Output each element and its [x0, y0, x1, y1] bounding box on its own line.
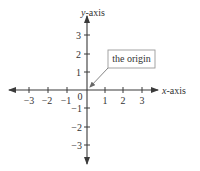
x-axis-label: x-axis — [161, 85, 186, 96]
y-tick-label: −3 — [71, 140, 82, 151]
y-axis-label: y-axis — [80, 7, 105, 18]
x-tick-label: 3 — [140, 95, 145, 106]
x-axis — [9, 87, 158, 93]
x-tick-label: −3 — [24, 95, 35, 106]
origin-callout: the origin — [90, 50, 155, 87]
x-axis-label-rest: -axis — [166, 85, 186, 96]
x-tick-label: −1 — [61, 95, 72, 106]
y-axis-label-rest: -axis — [85, 7, 105, 18]
y-tick-label: 1 — [76, 67, 81, 78]
callout-text: the origin — [112, 53, 151, 64]
y-tick-label: −2 — [71, 122, 82, 133]
x-tick-label: 1 — [103, 95, 108, 106]
x-tick-label: −2 — [42, 95, 53, 106]
axes-svg: −3 −2 −1 1 2 3 0 3 2 1 −1 −2 −3 x-axis y… — [0, 0, 200, 171]
origin-label: 0 — [78, 91, 83, 102]
x-tick-label: 2 — [121, 95, 126, 106]
y-tick-label: 3 — [76, 30, 81, 41]
y-tick-label: −1 — [71, 103, 82, 114]
y-tick-label: 2 — [76, 49, 81, 60]
coordinate-diagram: −3 −2 −1 1 2 3 0 3 2 1 −1 −2 −3 x-axis y… — [0, 0, 200, 171]
